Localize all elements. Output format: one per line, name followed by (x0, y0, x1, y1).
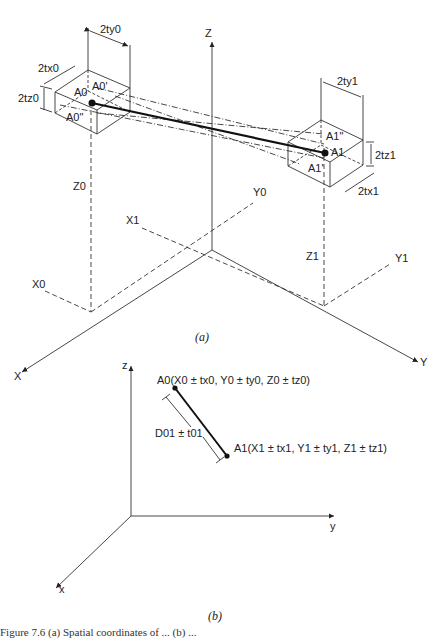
point-a1 (322, 150, 329, 157)
y1-label: Y1 (395, 252, 408, 264)
y0-label: Y0 (253, 186, 266, 198)
a1-label: A1 (331, 146, 344, 158)
b-x-label: x (59, 583, 65, 595)
dim-2ty1: 2ty1 (337, 75, 358, 87)
b-x-axis (56, 516, 131, 588)
dim-2tx1: 2tx1 (358, 185, 379, 197)
dim-2tx0: 2tx0 (38, 62, 59, 74)
distance-label: D01 ± t01 (155, 427, 203, 439)
segment-b (175, 388, 227, 456)
z-axis-label: Z (205, 27, 212, 39)
x-axis (22, 250, 212, 372)
part-a (22, 28, 418, 372)
part-b-labels: z y x A0(X0 ± tx0, Y0 ± ty0, Z0 ± tz0) A… (59, 359, 387, 623)
tolerance-envelope-lines (60, 88, 324, 164)
a0-label: A0 (74, 86, 87, 98)
y-axis-label: Y (420, 356, 428, 368)
b-z-label: z (122, 359, 128, 371)
z0-label: Z0 (73, 180, 86, 192)
a1-doubleprime-label: A1" (326, 130, 343, 142)
diagram-canvas: Z X Y X0 X1 Y0 Y1 Z0 Z1 A0 A0' A0" 2ty0 … (0, 0, 440, 638)
part-a-caption: (a) (195, 330, 209, 344)
tolerance-box-0 (40, 28, 130, 134)
a0-prime-label: A0' (92, 80, 108, 92)
a0-coordinate-label: A0(X0 ± tx0, Y0 ± ty0, Z0 ± tz0) (157, 374, 310, 386)
x1-label: X1 (126, 214, 139, 226)
point-a0 (89, 100, 96, 107)
part-b (56, 366, 334, 588)
b-y-label: y (330, 520, 336, 532)
part-b-caption: (b) (208, 609, 222, 623)
point-b-a1 (224, 453, 229, 458)
dim-2ty0: 2ty0 (100, 23, 121, 35)
segment-a0-a1 (92, 103, 325, 153)
dim-2tz0: 2tz0 (18, 92, 39, 104)
a1-coordinate-label: A1(X1 ± tx1, Y1 ± ty1, Z1 ± tz1) (234, 442, 387, 454)
dim-2tz1: 2tz1 (375, 149, 396, 161)
point-b-a0 (172, 385, 177, 390)
part-a-labels: Z X Y X0 X1 Y0 Y1 Z0 Z1 A0 A0' A0" 2ty0 … (14, 23, 428, 382)
z1-label: Z1 (306, 250, 319, 262)
a1-prime-label: A1' (308, 162, 324, 174)
x0-label: X0 (32, 278, 45, 290)
figure-caption: Figure 7.6 (a) Spatial coordinates of ..… (0, 626, 440, 638)
y-axis (212, 250, 418, 362)
a0-doubleprime-label: A0" (66, 111, 83, 123)
x-axis-label: X (14, 370, 22, 382)
